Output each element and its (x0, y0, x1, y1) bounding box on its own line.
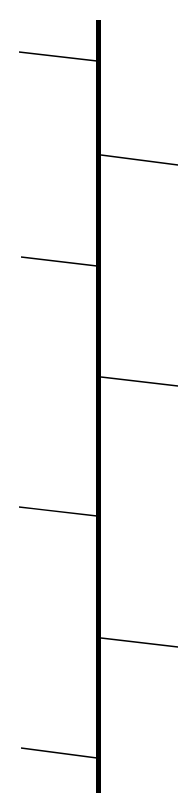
branch-diagram (0, 0, 190, 804)
diagram-background (0, 0, 190, 804)
